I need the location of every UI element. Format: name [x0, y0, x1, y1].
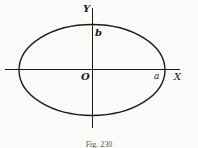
origin-label: O	[81, 71, 90, 82]
y-axis-label: Y	[83, 3, 90, 14]
figure-caption: Fig. 230	[0, 140, 198, 148]
semi-major-label: a	[154, 71, 159, 81]
semi-minor-label: b	[95, 27, 102, 38]
x-axis-label: X	[174, 71, 181, 82]
ellipse-figure	[0, 0, 198, 148]
